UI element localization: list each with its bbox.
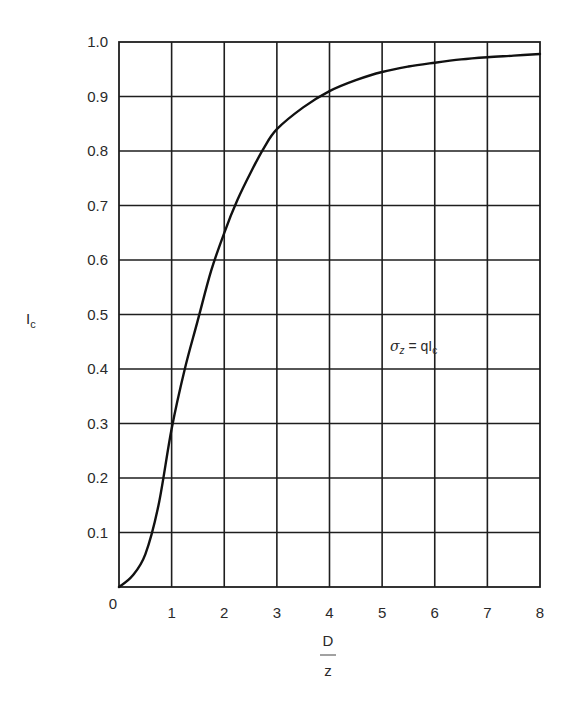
y-tick-label: 0.1	[87, 524, 108, 541]
y-tick-label: 0.8	[87, 142, 108, 159]
x-tick-label: 5	[378, 604, 386, 621]
x-axis-ticks: 012345678	[109, 595, 544, 621]
y-tick-label: 0.6	[87, 251, 108, 268]
y-axis-ticks: 0.10.20.30.40.50.60.70.80.91.0	[87, 33, 108, 541]
y-tick-label: 1.0	[87, 33, 108, 50]
x-tick-label: 4	[325, 604, 333, 621]
x-axis-label-denominator: z	[324, 662, 332, 679]
x-tick-label: 2	[220, 604, 228, 621]
y-tick-label: 0.5	[87, 306, 108, 323]
x-tick-label: 6	[431, 604, 439, 621]
y-tick-label: 0.2	[87, 469, 108, 486]
y-tick-label: 0.4	[87, 360, 108, 377]
y-tick-label: 0.7	[87, 197, 108, 214]
formula-annotation: σz = qIc	[390, 338, 437, 356]
x-tick-label: 8	[536, 604, 544, 621]
x-axis-label-numerator: D	[323, 632, 334, 649]
y-axis-label: Ic	[26, 310, 36, 330]
x-tick-label: 3	[273, 604, 281, 621]
y-tick-label: 0.3	[87, 415, 108, 432]
x-tick-label: 7	[483, 604, 491, 621]
grid-lines	[119, 42, 540, 587]
y-tick-label: 0.9	[87, 88, 108, 105]
x-tick-label: 0	[109, 595, 117, 612]
x-tick-label: 1	[167, 604, 175, 621]
chart: 0.10.20.30.40.50.60.70.80.91.0 012345678…	[0, 0, 569, 714]
x-axis-label: D z	[320, 632, 336, 679]
